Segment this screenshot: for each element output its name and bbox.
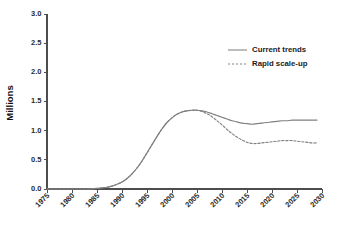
x-tick-label: 1975	[33, 191, 51, 209]
x-tick-label: 2010	[208, 191, 226, 209]
x-tick-label: 2000	[158, 191, 176, 209]
x-tick-label: 1980	[58, 191, 76, 209]
y-tick-label: 3.0	[31, 9, 41, 18]
chart-container: 0.00.51.01.52.02.53.0 197519801985199019…	[0, 0, 337, 230]
x-tick-label: 2025	[283, 191, 301, 209]
x-axis: 1975198019851990199520002005201020152020…	[33, 189, 326, 209]
x-tick-label: 2020	[258, 191, 276, 209]
legend-label-2: Rapid scale-up	[252, 59, 308, 68]
y-tick-label: 0.0	[31, 184, 41, 193]
legend-label-1: Current trends	[252, 45, 307, 54]
x-tick-label: 2005	[183, 191, 201, 209]
y-tick-label: 1.0	[31, 126, 41, 135]
y-tick-label: 2.5	[31, 38, 41, 47]
y-tick-label: 1.5	[31, 96, 41, 105]
x-tick-label: 2030	[308, 191, 326, 209]
x-tick-label: 1985	[83, 191, 101, 209]
series-line-1	[47, 110, 317, 189]
y-axis-title: Millions	[4, 85, 15, 120]
series-line-2	[47, 110, 317, 189]
x-tick-label: 1990	[108, 191, 126, 209]
line-chart: 0.00.51.01.52.02.53.0 197519801985199019…	[0, 0, 337, 230]
y-axis: 0.00.51.01.52.02.53.0	[31, 9, 47, 193]
y-tick-label: 2.0	[31, 67, 41, 76]
x-tick-label: 1995	[133, 191, 151, 209]
series-layer	[47, 110, 317, 189]
y-tick-label: 0.5	[31, 155, 41, 164]
x-tick-label: 2015	[233, 191, 251, 209]
chart-legend: Current trendsRapid scale-up	[228, 45, 308, 68]
